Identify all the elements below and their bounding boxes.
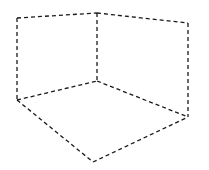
left-wall-floor-edge [17, 81, 97, 100]
right-wall-top-edge [97, 13, 188, 23]
right-wall-floor-edge [97, 81, 188, 117]
floor-right-front-edge [93, 117, 188, 162]
isometric-corner-diagram [0, 0, 209, 170]
diagram-edges [17, 13, 188, 162]
floor-left-front-edge [17, 100, 93, 162]
left-wall-top-edge [17, 13, 97, 18]
